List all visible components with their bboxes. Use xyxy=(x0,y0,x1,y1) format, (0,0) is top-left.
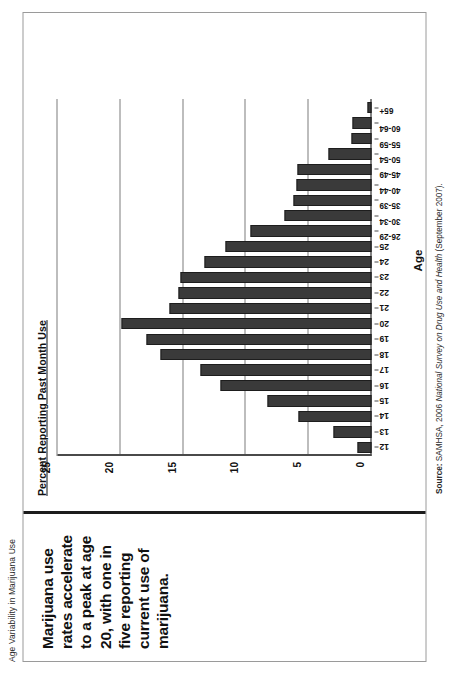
bar[interactable] xyxy=(204,256,371,267)
source-date: (September 2007). xyxy=(434,183,443,251)
x-axis-tick-label: 14 xyxy=(379,411,389,421)
x-axis-tick xyxy=(374,200,378,201)
bar[interactable] xyxy=(352,117,371,128)
x-axis-tick-label: 12 xyxy=(379,442,389,452)
source-survey: National Survey on Drug Use and Health xyxy=(434,254,443,402)
bar-item[interactable]: 65+ xyxy=(57,100,371,115)
x-axis-tick-label: 45-49 xyxy=(379,171,400,180)
bar-item[interactable]: 14 xyxy=(57,409,371,424)
bar[interactable] xyxy=(267,395,371,406)
bar-item[interactable]: 25 xyxy=(57,239,371,254)
bar-item[interactable]: 35-39 xyxy=(57,193,371,208)
x-axis-tick xyxy=(374,277,378,278)
x-axis-tick xyxy=(374,292,378,293)
bar-item[interactable]: 15 xyxy=(57,393,371,408)
x-axis-tick-label: 40-44 xyxy=(379,186,400,195)
bar[interactable] xyxy=(225,241,371,252)
bar-item[interactable]: 45-49 xyxy=(57,162,371,177)
bar[interactable] xyxy=(180,272,371,283)
bar[interactable] xyxy=(178,287,371,298)
x-axis-tick-label: 17 xyxy=(379,365,389,375)
bar-item[interactable]: 40-44 xyxy=(57,177,371,192)
x-axis-tick xyxy=(374,153,378,154)
x-axis-tick xyxy=(374,385,378,386)
x-axis-tick xyxy=(374,431,378,432)
bar-item[interactable]: 23 xyxy=(57,270,371,285)
bar[interactable] xyxy=(367,102,371,113)
bar[interactable] xyxy=(160,349,371,360)
bar[interactable] xyxy=(333,426,371,437)
chart-column: Percent Reporting Past Month Use 0510152… xyxy=(23,13,425,508)
bar[interactable] xyxy=(351,133,371,144)
bar-series: 121314151617181920212223242526-2930-3435… xyxy=(57,99,371,456)
x-axis-tick xyxy=(374,323,378,324)
bar-item[interactable]: 12 xyxy=(57,440,371,455)
bar[interactable] xyxy=(220,380,371,391)
rotated-page-wrapper: Age Variability in Marijuana Use Marijua… xyxy=(0,0,453,674)
bar[interactable] xyxy=(328,148,371,159)
x-axis-title: Age xyxy=(411,13,423,508)
bar[interactable] xyxy=(250,225,371,236)
bar-item[interactable]: 20 xyxy=(57,316,371,331)
bar-item[interactable]: 21 xyxy=(57,301,371,316)
bar-item[interactable]: 60-64 xyxy=(57,115,371,130)
bar[interactable] xyxy=(121,318,371,329)
bar[interactable] xyxy=(298,411,371,422)
bar[interactable] xyxy=(296,179,371,190)
x-axis-tick-label: 16 xyxy=(379,380,389,390)
x-axis-tick-label: 55-59 xyxy=(379,140,400,149)
bar[interactable] xyxy=(200,364,371,375)
y-axis-tick-label: 10 xyxy=(229,462,240,473)
source-org: SAMHSA, 2006 xyxy=(434,404,443,461)
x-axis-tick xyxy=(374,447,378,448)
x-axis-tick-label: 25 xyxy=(379,241,389,251)
x-axis-tick xyxy=(374,262,378,263)
bar[interactable] xyxy=(146,334,371,345)
x-axis-tick xyxy=(374,215,378,216)
bar-item[interactable]: 18 xyxy=(57,347,371,362)
title-column: Marijuana use rates accelerate to a peak… xyxy=(23,511,425,661)
bar-item[interactable]: 16 xyxy=(57,378,371,393)
x-axis-tick xyxy=(374,308,378,309)
y-axis-tick-label: 25 xyxy=(41,462,52,473)
document-page: Age Variability in Marijuana Use Marijua… xyxy=(0,0,453,674)
bar[interactable] xyxy=(357,442,371,453)
x-axis-tick-label: 35-39 xyxy=(379,202,400,211)
x-axis-tick-label: 20 xyxy=(379,319,389,329)
x-axis-tick xyxy=(374,231,378,232)
x-axis-tick xyxy=(374,169,378,170)
x-axis-tick-label: 18 xyxy=(379,349,389,359)
bar-item[interactable]: 22 xyxy=(57,285,371,300)
bar[interactable] xyxy=(293,195,371,206)
figure-title: Marijuana use rates accelerate to a peak… xyxy=(37,526,172,649)
x-axis-tick-label: 15 xyxy=(379,396,389,406)
bar-item[interactable]: 55-59 xyxy=(57,131,371,146)
bar-item[interactable]: 19 xyxy=(57,332,371,347)
source-label: Source: xyxy=(434,464,443,494)
x-axis-tick-label: 24 xyxy=(379,257,389,267)
bar-item[interactable]: 26-29 xyxy=(57,223,371,238)
bar[interactable] xyxy=(284,210,371,221)
plot-area: 0510152025 12131415161718192021222324252… xyxy=(57,99,371,456)
x-axis-tick-label: 60-64 xyxy=(379,125,400,134)
x-axis-tick xyxy=(374,400,378,401)
x-axis-tick-label: 30-34 xyxy=(379,217,400,226)
bar-item[interactable]: 30-34 xyxy=(57,208,371,223)
x-axis-tick xyxy=(374,416,378,417)
bar-item[interactable]: 13 xyxy=(57,424,371,439)
bar[interactable] xyxy=(297,164,371,175)
x-axis-tick xyxy=(374,339,378,340)
running-head: Age Variability in Marijuana Use xyxy=(6,539,16,662)
y-axis-tick-label: 0 xyxy=(355,462,366,468)
y-axis-tick-label: 15 xyxy=(166,462,177,473)
x-axis-tick xyxy=(374,184,378,185)
bar-item[interactable]: 50-54 xyxy=(57,146,371,161)
x-axis-tick xyxy=(374,107,378,108)
x-axis-tick-label: 26-29 xyxy=(379,233,400,242)
bar-item[interactable]: 24 xyxy=(57,254,371,269)
source-note: Source: SAMHSA, 2006 National Survey on … xyxy=(434,183,443,494)
x-axis-tick-label: 65+ xyxy=(379,106,393,115)
bar[interactable] xyxy=(169,303,371,314)
y-axis-tick-label: 20 xyxy=(103,462,114,473)
bar-item[interactable]: 17 xyxy=(57,362,371,377)
